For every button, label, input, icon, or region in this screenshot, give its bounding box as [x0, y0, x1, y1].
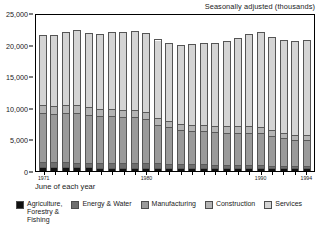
y-axis: 05,00010,00015,00020,00025,000	[0, 14, 33, 172]
bar-segment	[235, 169, 241, 171]
legend-swatch-icon	[141, 201, 149, 209]
bar-segment	[246, 35, 252, 127]
bar-segment	[51, 115, 57, 163]
stacked-bar-chart: Seasonally adjusted (thousands) 05,00010…	[0, 0, 323, 234]
bar-1990	[257, 32, 265, 171]
bar-segment	[224, 42, 230, 127]
bar-segment	[246, 169, 252, 171]
bar-segment	[269, 169, 275, 171]
legend-item[interactable]: Energy & Water	[71, 200, 131, 209]
bar-segment	[189, 169, 195, 171]
bar-segment	[212, 169, 218, 171]
legend-item[interactable]: Construction	[205, 200, 255, 209]
x-axis-tick-label: 1994	[301, 175, 313, 181]
bar-segment	[143, 169, 149, 171]
bar-1984	[188, 44, 196, 171]
bar-segment	[132, 32, 138, 111]
bar-segment	[74, 114, 80, 164]
bar-segment	[63, 33, 69, 106]
legend-label: Energy & Water	[82, 200, 131, 208]
legend-swatch-icon	[264, 201, 272, 209]
y-axis-tick-label: 20,000	[6, 41, 28, 50]
bar-segment	[63, 168, 69, 171]
bar-segment	[292, 141, 298, 167]
legend-label: Construction	[216, 200, 255, 208]
bar-segment	[97, 110, 103, 118]
legend-item[interactable]: Services	[264, 200, 302, 209]
bar-segment	[120, 118, 126, 164]
x-axis-title: June of each year	[35, 182, 95, 191]
bar-1987	[223, 41, 231, 171]
bar-segment	[143, 34, 149, 113]
bar-segment	[40, 168, 46, 171]
bar-segment	[74, 106, 80, 114]
bar-segment	[132, 111, 138, 118]
bar-segment	[224, 169, 230, 171]
bar-1975	[85, 33, 93, 171]
bar-segment	[86, 34, 92, 108]
legend-item[interactable]: Manufacturing	[141, 200, 196, 209]
bar-segment	[246, 127, 252, 134]
plot-frame	[35, 14, 315, 172]
legend-swatch-icon	[71, 201, 79, 209]
bar-segment	[155, 126, 161, 165]
bar-segment	[258, 128, 264, 135]
bar-segment	[304, 169, 310, 171]
bar-1977	[108, 32, 116, 171]
bar-segment	[235, 134, 241, 167]
x-axis-tick-label: 1980	[141, 175, 153, 181]
legend-label: Services	[275, 200, 302, 208]
y-axis-tick-label: 0	[24, 168, 28, 177]
bar-1976	[96, 34, 104, 171]
bar-segment	[51, 168, 57, 171]
bar-segment	[155, 41, 161, 119]
bar-1972	[50, 35, 58, 171]
bar-1982	[165, 43, 173, 171]
bar-1985	[200, 43, 208, 171]
bar-segment	[292, 169, 298, 171]
y-axis-tick-label: 5,000	[10, 136, 28, 145]
bar-segment	[132, 118, 138, 164]
bar-segment	[109, 169, 115, 171]
bar-segment	[258, 33, 264, 127]
legend-item[interactable]: Agriculture, Forestry & Fishing	[16, 200, 62, 225]
chart-legend: Agriculture, Forestry & FishingEnergy & …	[16, 200, 319, 225]
bar-segment	[201, 169, 207, 171]
bar-1971	[39, 35, 47, 172]
bar-segment	[189, 45, 195, 126]
legend-label: Agriculture, Forestry & Fishing	[27, 200, 62, 225]
bar-segment	[224, 134, 230, 166]
bar-1983	[177, 45, 185, 171]
bar-1986	[211, 43, 219, 171]
y-axis-tick	[29, 172, 33, 173]
bar-1988	[234, 38, 242, 172]
bar-1974	[73, 30, 81, 171]
bar-segment	[97, 35, 103, 110]
bar-1973	[62, 32, 70, 171]
bar-segment	[189, 132, 195, 165]
bar-1991	[268, 37, 276, 171]
bar-segment	[201, 44, 207, 126]
bar-segment	[74, 31, 80, 106]
bar-segment	[281, 169, 287, 171]
y-axis-tick	[29, 14, 33, 15]
bar-segment	[235, 127, 241, 134]
bar-segment	[63, 114, 69, 163]
bar-segment	[304, 41, 310, 136]
bar-segment	[40, 36, 46, 107]
plot-area	[36, 15, 314, 171]
y-axis-tick-label: 25,000	[6, 10, 28, 19]
bar-segment	[63, 106, 69, 114]
bar-1989	[245, 34, 253, 171]
bar-segment	[40, 114, 46, 163]
legend-swatch-icon	[16, 201, 24, 209]
bar-1979	[131, 31, 139, 171]
bar-segment	[292, 42, 298, 136]
y-axis-tick	[29, 77, 33, 78]
bar-segment	[132, 169, 138, 171]
bar-segment	[281, 41, 287, 134]
bar-segment	[178, 131, 184, 165]
bar-segment	[281, 139, 287, 167]
bar-segment	[269, 38, 275, 131]
bar-segment	[155, 169, 161, 171]
